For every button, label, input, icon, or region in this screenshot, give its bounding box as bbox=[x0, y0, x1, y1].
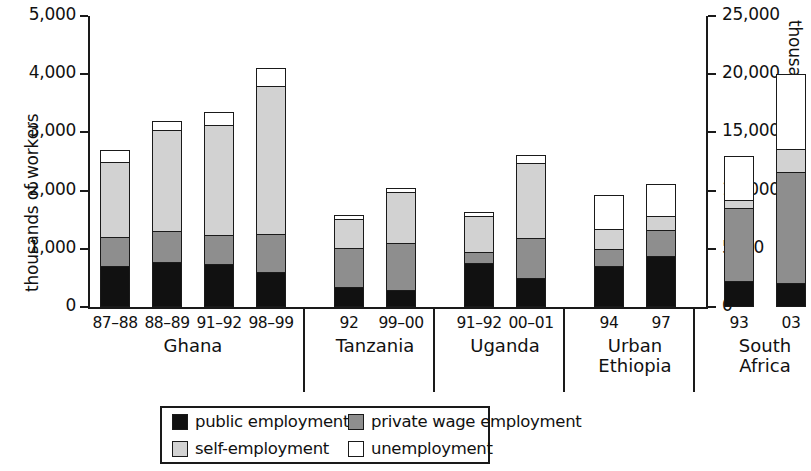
right-axis-line bbox=[706, 16, 708, 309]
right-tick-label-3: 15,000 bbox=[722, 120, 780, 140]
bar-segment-unemp bbox=[724, 156, 754, 200]
x-tick-label-03: 03 bbox=[767, 314, 811, 332]
bar-ghana-88–89[interactable] bbox=[152, 121, 182, 307]
left-axis-line bbox=[88, 16, 90, 309]
legend-swatch-private-icon bbox=[348, 414, 364, 430]
x-tick-label-93: 93 bbox=[715, 314, 763, 332]
x-tick-label-88–89: 88–89 bbox=[143, 314, 191, 332]
legend-item-private: private wage employment bbox=[348, 412, 581, 431]
x-axis-line bbox=[88, 307, 708, 309]
bar-segment-private bbox=[152, 231, 182, 262]
bar-segment-public bbox=[516, 278, 546, 307]
right-tick-5 bbox=[708, 15, 716, 17]
bar-segment-public bbox=[776, 283, 806, 307]
bar-segment-self bbox=[386, 192, 416, 243]
group-label-south-africa: SouthAfrica bbox=[684, 336, 811, 376]
bar-segment-private bbox=[100, 237, 130, 267]
bar-segment-self bbox=[516, 163, 546, 237]
legend-item-unemp: unemployment bbox=[348, 439, 581, 458]
chart-legend: public employmentprivate wage employment… bbox=[160, 406, 490, 464]
bar-segment-public bbox=[204, 264, 234, 307]
bar-tanzania-99–00[interactable] bbox=[386, 188, 416, 307]
bar-segment-self bbox=[204, 125, 234, 235]
bar-segment-self bbox=[776, 149, 806, 172]
plot-area: 01,0002,0003,0004,0005,000 0500010,00015… bbox=[88, 16, 708, 309]
legend-swatch-unemp-icon bbox=[348, 441, 364, 457]
x-tick-label-91–92: 91–92 bbox=[455, 314, 503, 332]
legend-item-public: public employment bbox=[172, 412, 348, 431]
bar-segment-private bbox=[464, 252, 494, 263]
left-tick-label-1: 1,000 bbox=[29, 237, 76, 257]
bar-segment-unemp bbox=[256, 68, 286, 85]
bar-segment-public bbox=[152, 262, 182, 307]
right-tick-4 bbox=[708, 73, 716, 75]
bar-segment-public bbox=[464, 263, 494, 307]
bar-south-africa-93[interactable] bbox=[724, 156, 754, 307]
left-tick-0 bbox=[80, 306, 88, 308]
bar-segment-unemp bbox=[152, 121, 182, 129]
bar-uganda-91–92[interactable] bbox=[464, 212, 494, 307]
x-tick-label-99–00: 99–00 bbox=[377, 314, 425, 332]
bar-segment-self bbox=[100, 162, 130, 237]
left-tick-label-3: 3,000 bbox=[29, 120, 76, 140]
left-axis-title: thousands of workers bbox=[22, 114, 42, 292]
legend-label-self: self-employment bbox=[195, 439, 329, 458]
group-label-ghana: Ghana bbox=[60, 336, 326, 356]
x-tick-label-97: 97 bbox=[637, 314, 685, 332]
legend-label-private: private wage employment bbox=[371, 412, 581, 431]
bar-segment-unemp bbox=[204, 112, 234, 125]
bar-segment-private bbox=[204, 235, 234, 264]
x-tick-label-92: 92 bbox=[325, 314, 373, 332]
bar-segment-private bbox=[516, 238, 546, 279]
bar-segment-public bbox=[256, 272, 286, 307]
bar-segment-self bbox=[594, 229, 624, 249]
left-tick-3 bbox=[80, 131, 88, 133]
left-tick-2 bbox=[80, 190, 88, 192]
bar-segment-self bbox=[724, 200, 754, 208]
bar-segment-public bbox=[334, 287, 364, 307]
legend-swatch-public-icon bbox=[172, 414, 188, 430]
bar-segment-self bbox=[152, 130, 182, 231]
bar-urban-ethiopia-97[interactable] bbox=[646, 184, 676, 307]
bar-segment-private bbox=[724, 208, 754, 281]
bar-segment-private bbox=[776, 172, 806, 283]
left-tick-label-0: 0 bbox=[65, 295, 76, 315]
bar-ghana-87–88[interactable] bbox=[100, 150, 130, 307]
bar-segment-unemp bbox=[594, 195, 624, 229]
legend-item-self: self-employment bbox=[172, 439, 348, 458]
bar-uganda-00–01[interactable] bbox=[516, 155, 546, 307]
bar-segment-private bbox=[594, 249, 624, 266]
bar-segment-self bbox=[646, 216, 676, 230]
bar-segment-public bbox=[594, 266, 624, 307]
bar-segment-public bbox=[724, 281, 754, 307]
right-tick-label-5: 25,000 bbox=[722, 4, 780, 24]
x-tick-label-94: 94 bbox=[585, 314, 633, 332]
bar-ghana-98–99[interactable] bbox=[256, 68, 286, 307]
bar-segment-private bbox=[646, 230, 676, 257]
left-tick-4 bbox=[80, 73, 88, 75]
left-tick-label-5: 5,000 bbox=[29, 4, 76, 24]
right-tick-2 bbox=[708, 190, 716, 192]
bar-segment-public bbox=[386, 290, 416, 307]
bar-urban-ethiopia-94[interactable] bbox=[594, 195, 624, 307]
left-tick-label-4: 4,000 bbox=[29, 62, 76, 82]
right-tick-3 bbox=[708, 131, 716, 133]
bar-tanzania-92[interactable] bbox=[334, 215, 364, 307]
x-tick-label-98–99: 98–99 bbox=[247, 314, 295, 332]
bar-segment-public bbox=[100, 266, 130, 307]
legend-label-unemp: unemployment bbox=[371, 439, 493, 458]
bar-south-africa-03[interactable] bbox=[776, 74, 806, 307]
bar-segment-self bbox=[334, 219, 364, 249]
bar-segment-unemp bbox=[100, 150, 130, 161]
bar-segment-self bbox=[256, 86, 286, 234]
bar-segment-private bbox=[256, 234, 286, 272]
left-tick-label-2: 2,000 bbox=[29, 179, 76, 199]
bar-ghana-91–92[interactable] bbox=[204, 112, 234, 307]
bar-segment-public bbox=[646, 256, 676, 307]
x-tick-label-00–01: 00–01 bbox=[507, 314, 555, 332]
bar-segment-unemp bbox=[516, 155, 546, 163]
bar-segment-unemp bbox=[646, 184, 676, 215]
x-tick-label-91–92: 91–92 bbox=[195, 314, 243, 332]
right-tick-0 bbox=[708, 306, 716, 308]
left-tick-1 bbox=[80, 248, 88, 250]
